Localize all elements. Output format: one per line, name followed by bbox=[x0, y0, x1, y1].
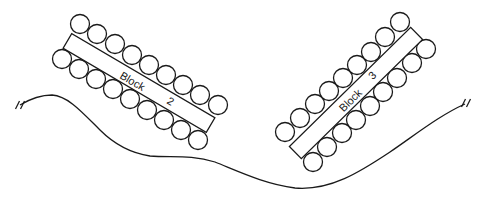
plant-circle bbox=[71, 15, 90, 34]
break-mark-icon bbox=[467, 99, 471, 107]
block-2-group: Block 2 bbox=[53, 15, 228, 150]
plant-circle bbox=[140, 56, 159, 75]
diagram-svg: Block 2 Block 3 bbox=[0, 0, 485, 199]
site-plan-diagram: Block 2 Block 3 bbox=[0, 0, 485, 199]
plant-circle bbox=[174, 76, 193, 95]
block-3-group: Block 3 bbox=[276, 13, 436, 172]
plant-circle bbox=[391, 13, 410, 32]
plant-circle bbox=[157, 66, 176, 85]
plant-circle bbox=[155, 111, 174, 130]
plant-circle bbox=[121, 90, 140, 109]
plant-circle bbox=[53, 50, 72, 69]
plant-circle bbox=[376, 28, 395, 47]
plant-circle bbox=[104, 80, 123, 99]
plant-circle bbox=[304, 153, 323, 172]
break-marks bbox=[16, 99, 471, 109]
plant-circle bbox=[189, 131, 208, 150]
break-mark-icon bbox=[462, 99, 466, 107]
plant-circle bbox=[138, 101, 157, 120]
plant-circle bbox=[209, 96, 228, 115]
plant-circle bbox=[191, 86, 210, 105]
break-mark-icon bbox=[16, 101, 20, 109]
plant-circle bbox=[88, 25, 107, 44]
plant-circle bbox=[347, 111, 366, 130]
plant-circle bbox=[172, 121, 191, 140]
plant-circle bbox=[87, 70, 106, 89]
plant-circle bbox=[123, 46, 142, 65]
plant-circle bbox=[106, 35, 125, 54]
terrain-contour-line bbox=[20, 95, 465, 188]
plant-circle bbox=[276, 123, 295, 142]
plant-circle bbox=[362, 43, 381, 62]
plant-circle bbox=[291, 109, 310, 128]
plant-circle bbox=[70, 60, 89, 79]
